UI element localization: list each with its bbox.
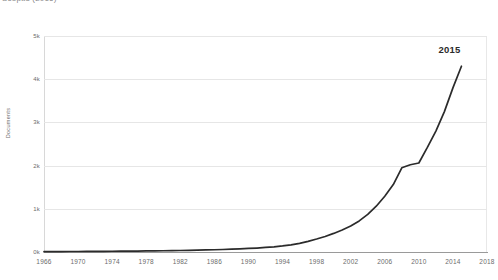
annotation-2015: 2015 (438, 44, 460, 55)
series-line-documents (0, 0, 498, 280)
chart-container: Scopus (2016) Documents 0k1k2k3k4k5k 196… (0, 0, 498, 280)
